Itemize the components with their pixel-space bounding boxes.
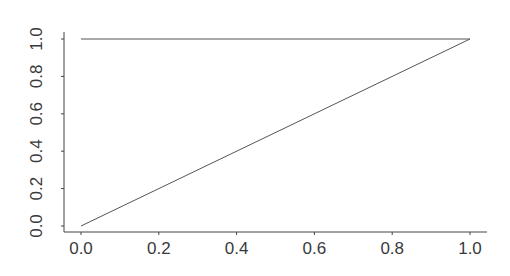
x-tick-label: 0.0 bbox=[69, 239, 93, 258]
x-axis-labels: 0.00.20.40.60.81.0 bbox=[69, 239, 482, 258]
y-tick-label: 1.0 bbox=[27, 27, 46, 51]
data-lines bbox=[81, 39, 470, 226]
series-line-diagonal bbox=[81, 39, 470, 226]
x-tick-label: 0.4 bbox=[225, 239, 249, 258]
line-chart: 0.00.20.40.60.81.0 0.00.20.40.60.81.0 bbox=[0, 0, 510, 276]
y-tick-label: 0.6 bbox=[27, 102, 46, 126]
x-tick-label: 0.8 bbox=[380, 239, 404, 258]
x-tick-label: 1.0 bbox=[458, 239, 482, 258]
x-tick-label: 0.2 bbox=[147, 239, 171, 258]
y-tick-label: 0.0 bbox=[27, 214, 46, 238]
y-tick-label: 0.4 bbox=[27, 139, 46, 163]
y-tick-label: 0.2 bbox=[27, 177, 46, 201]
y-tick-label: 0.8 bbox=[27, 65, 46, 89]
x-tick-label: 0.6 bbox=[303, 239, 327, 258]
y-axis-labels: 0.00.20.40.60.81.0 bbox=[27, 27, 46, 238]
